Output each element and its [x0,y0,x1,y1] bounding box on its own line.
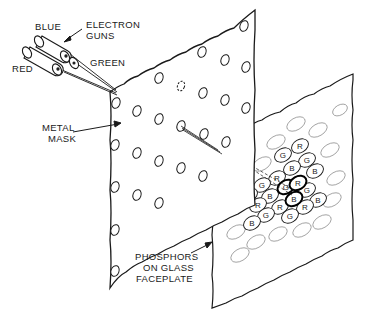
label-phosphors-3: FACEPLATE [136,273,193,284]
phosphor-dot-label: R [302,203,308,212]
phosphor-dot-label: B [315,196,321,205]
phosphor-dot-label: R [274,174,280,183]
phosphor-dot-label: G [304,156,311,165]
label-metal-mask-2: MASK [48,133,76,144]
label-phosphors-2: ON GLASS [143,262,194,273]
label-blue: BLUE [35,21,61,32]
phosphor-dot-label: R [297,142,303,151]
phosphor-dot-label: B [312,167,318,176]
phosphor-dot-label: B [249,219,255,228]
phosphor-dot-label: B [289,164,295,173]
phosphor-dot-label: G [259,181,266,190]
label-metal-mask-1: METAL [42,122,74,133]
phosphor-dot-label: R [277,203,283,212]
phosphor-dot-label: G [280,151,287,160]
phosphor-dot-label: B [291,195,297,204]
phosphor-dot-label: R [295,179,301,188]
phosphor-dot-label: G [287,212,294,221]
label-electron-guns-1: ELECTRON [86,19,140,30]
phosphor-dot-label: G [263,211,270,220]
phosphor-dot-label: B [267,192,273,201]
label-green: GREEN [90,57,125,68]
label-phosphors-1: PHOSPHORS [135,251,198,262]
phosphor-dot-label: R [255,201,261,210]
label-electron-guns-2: GUNS [86,30,115,41]
shadow-mask-crt-diagram: RGGBBRGRGGBBBBRRRGGB [0,0,371,323]
phosphor-dot-label: G [304,186,311,195]
label-red: RED [12,63,33,74]
